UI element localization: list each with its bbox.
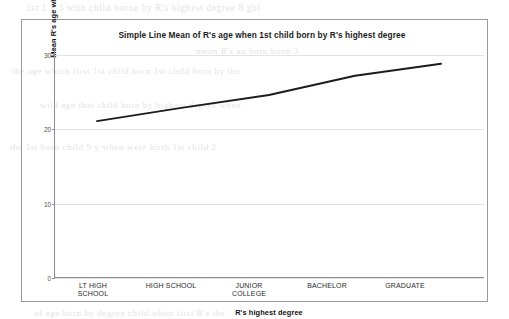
x-tick-label-line: BACHELOR: [289, 282, 365, 290]
chart-figure-card: Simple Line Mean of R's age when 1st chi…: [21, 19, 488, 302]
x-tick-label-junior-college: JUNIOR COLLEGE: [211, 282, 287, 299]
data-series-line: [54, 40, 484, 278]
x-tick-label-lt-high-school: LT HIGH SCHOOL: [55, 282, 131, 299]
gridline-0: 0: [55, 278, 484, 279]
x-tick-label-bachelor: BACHELOR: [289, 282, 365, 290]
x-tick-label-high-school: HIGH SCHOOL: [133, 282, 209, 290]
y-tick-label: 30: [44, 52, 51, 59]
x-tick-label-line: COLLEGE: [211, 290, 287, 298]
x-tick-label-line: SCHOOL: [55, 290, 131, 298]
chart-page: Simple Line Mean of R's age when 1st chi…: [0, 0, 509, 319]
y-tick-label: 0: [47, 275, 51, 282]
x-tick-label-line: JUNIOR: [211, 282, 287, 290]
y-tick-mark: [52, 278, 55, 279]
x-axis-title: R's highest degree: [54, 308, 484, 317]
y-tick-label: 10: [44, 201, 51, 208]
y-tick-label: 20: [44, 126, 51, 133]
x-tick-label-line: LT HIGH: [55, 282, 131, 290]
x-tick-label-line: HIGH SCHOOL: [133, 282, 209, 290]
x-tick-label-graduate: GRADUATE: [367, 282, 443, 290]
chart-title: Simple Line Mean of R's age when 1st chi…: [62, 30, 462, 40]
x-tick-label-line: GRADUATE: [367, 282, 443, 290]
